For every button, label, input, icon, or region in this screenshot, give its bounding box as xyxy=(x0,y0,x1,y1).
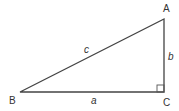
side-label-b: b xyxy=(168,51,174,62)
vertex-label-a: A xyxy=(163,3,170,14)
vertex-label-b: B xyxy=(9,95,16,106)
vertex-label-c: C xyxy=(163,97,170,108)
side-label-c: c xyxy=(84,44,89,55)
side-label-a: a xyxy=(91,95,97,106)
triangle-diagram: A B C c b a xyxy=(0,0,179,111)
triangle-shape xyxy=(20,19,164,92)
right-angle-marker xyxy=(157,85,164,92)
